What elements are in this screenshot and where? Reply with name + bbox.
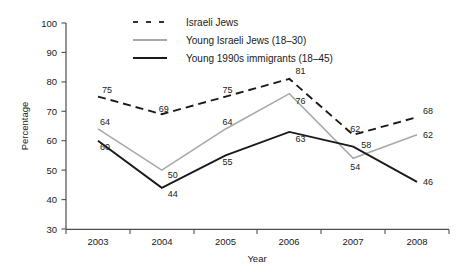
y-tick-label-70: 70 <box>46 106 57 117</box>
legend-label-young-israeli-jews: Young Israeli Jews (18–30) <box>186 35 306 46</box>
y-tick-label-80: 80 <box>46 76 57 87</box>
data-label-s0-p1: 69 <box>159 104 169 114</box>
data-label-s0-p5: 68 <box>423 106 433 116</box>
y-tick-label-30: 30 <box>46 224 57 235</box>
x-tick-label-2007: 2007 <box>342 236 363 247</box>
data-label-s2-p5: 46 <box>423 177 433 187</box>
y-tick-label-100: 100 <box>41 18 57 29</box>
data-label-s1-p1: 50 <box>168 170 178 180</box>
x-axis: 2003 2004 2005 2006 2007 2008 Year <box>66 229 449 264</box>
chart-canvas: Israeli Jews Young Israeli Jews (18–30) … <box>0 0 456 272</box>
y-tick-label-50: 50 <box>46 165 57 176</box>
y-axis: 100 90 80 70 60 50 40 30 Percentage <box>19 18 66 235</box>
y-tick-label-90: 90 <box>46 47 57 58</box>
x-axis-title: Year <box>247 253 266 264</box>
y-axis-title: Percentage <box>19 102 30 151</box>
x-tick-label-2005: 2005 <box>215 236 236 247</box>
x-tick-label-2003: 2003 <box>87 236 108 247</box>
data-label-s2-p0: 60 <box>100 142 110 152</box>
data-label-s1-p5: 62 <box>423 130 433 140</box>
data-label-s0-p2: 75 <box>223 85 233 95</box>
data-label-s0-p0: 75 <box>102 85 112 95</box>
data-label-s0-p4: 62 <box>350 124 360 134</box>
legend-label-israeli-jews: Israeli Jews <box>186 17 238 28</box>
data-label-s1-p2: 64 <box>223 117 233 127</box>
data-label-s1-p0: 64 <box>100 117 110 127</box>
y-tick-label-40: 40 <box>46 194 57 205</box>
y-tick-label-60: 60 <box>46 135 57 146</box>
data-label-s2-p2: 55 <box>223 157 233 167</box>
series-line-0 <box>98 79 417 135</box>
x-tick-label-2004: 2004 <box>151 236 172 247</box>
line-chart: Israeli Jews Young Israeli Jews (18–30) … <box>0 0 456 272</box>
legend-label-young-immigrants: Young 1990s immigrants (18–45) <box>186 53 333 64</box>
series-layer <box>98 79 417 188</box>
x-tick-label-2006: 2006 <box>278 236 299 247</box>
chart-legend: Israeli Jews Young Israeli Jews (18–30) … <box>133 17 333 64</box>
data-label-s1-p4: 54 <box>350 162 360 172</box>
data-label-s0-p3: 81 <box>295 66 305 76</box>
series-line-1 <box>98 94 417 171</box>
data-label-s2-p1: 44 <box>168 189 178 199</box>
data-label-s1-p3: 76 <box>295 96 305 106</box>
data-label-s2-p4: 58 <box>361 140 371 150</box>
x-tick-label-2008: 2008 <box>406 236 427 247</box>
data-label-s2-p3: 63 <box>295 134 305 144</box>
